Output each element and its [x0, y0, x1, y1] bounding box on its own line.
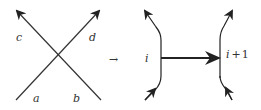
strand-i-upper: [145, 11, 161, 76]
strand-b-to-c: [17, 11, 101, 100]
strand-a-to-d: [16, 11, 99, 100]
strand-i-lower: [145, 76, 161, 100]
label-i: i: [145, 52, 149, 65]
strand-i1-upper: [220, 11, 232, 78]
crossing: c d a b: [16, 11, 101, 105]
transform-arrow-icon: →: [109, 53, 118, 66]
strand-i: i: [145, 11, 161, 100]
label-c: c: [16, 31, 22, 44]
strand-i1-lower-arrow: [226, 88, 232, 100]
strand-i-plus-1: i+1: [220, 11, 249, 100]
diagram-canvas: c d a b → i i+1: [0, 0, 261, 110]
label-b: b: [73, 92, 80, 105]
strand-i-lower-arrow: [145, 89, 155, 100]
label-d: d: [89, 31, 96, 44]
label-i-plus-1: i+1: [226, 48, 249, 61]
label-a: a: [33, 92, 40, 105]
